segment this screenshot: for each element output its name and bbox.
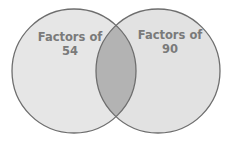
- label-line2: 54: [30, 44, 110, 58]
- label-line1: Factors of: [30, 30, 110, 44]
- label-line2: 90: [130, 42, 210, 56]
- label-factors-of-54: Factors of 54: [30, 30, 110, 58]
- venn-diagram: [0, 0, 227, 142]
- label-factors-of-90: Factors of 90: [130, 28, 210, 56]
- label-line1: Factors of: [130, 28, 210, 42]
